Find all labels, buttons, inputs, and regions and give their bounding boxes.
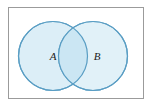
venn-diagram-figure: A B	[0, 0, 155, 108]
set-b-label: B	[94, 50, 101, 62]
set-a-label: A	[49, 50, 57, 62]
venn-diagram-canvas: A B	[0, 0, 155, 108]
